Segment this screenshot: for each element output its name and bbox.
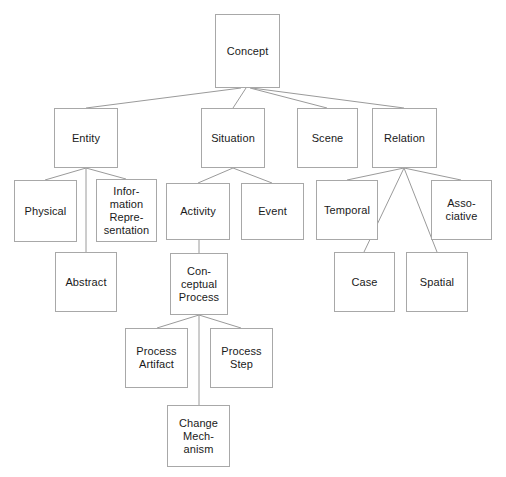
node-associative[interactable]: Asso- ciative: [431, 180, 492, 240]
node-conceptual[interactable]: Con- ceptual Process: [170, 253, 228, 315]
concept-taxonomy-diagram: ConceptEntitySituationSceneRelationPhysi…: [0, 0, 506, 477]
node-label-associative: Asso- ciative: [444, 197, 480, 223]
node-label-situation: Situation: [209, 132, 257, 145]
node-change_mech[interactable]: Change Mech- anism: [167, 405, 230, 467]
node-label-relation: Relation: [382, 132, 427, 145]
node-proc_artifact[interactable]: Process Artifact: [125, 328, 188, 388]
node-label-event: Event: [256, 205, 289, 218]
node-label-spatial: Spatial: [418, 276, 456, 289]
edge-relation-to-temporal: [347, 168, 404, 180]
node-abstract[interactable]: Abstract: [55, 252, 117, 312]
node-case[interactable]: Case: [334, 252, 395, 312]
node-label-physical: Physical: [23, 205, 69, 218]
edge-situation-to-activity: [198, 168, 233, 183]
edge-conceptual-to-proc_artifact: [157, 315, 199, 328]
edge-relation-to-associative: [404, 168, 461, 180]
node-label-concept: Concept: [225, 45, 271, 58]
node-physical[interactable]: Physical: [14, 180, 77, 242]
edge-concept-to-relation: [252, 88, 404, 108]
node-label-activity: Activity: [178, 205, 218, 218]
node-situation[interactable]: Situation: [201, 108, 265, 168]
node-label-temporal: Temporal: [322, 204, 372, 217]
node-label-case: Case: [349, 276, 379, 289]
node-info_rep[interactable]: Infor- mation Repre- sentation: [96, 179, 157, 242]
node-activity[interactable]: Activity: [166, 183, 230, 240]
node-label-change_mech: Change Mech- anism: [177, 417, 220, 456]
node-label-proc_artifact: Process Artifact: [134, 345, 178, 371]
edge-entity-to-info_rep: [86, 168, 126, 179]
node-relation[interactable]: Relation: [372, 108, 437, 168]
node-spatial[interactable]: Spatial: [406, 252, 468, 312]
node-concept[interactable]: Concept: [215, 14, 280, 88]
node-entity[interactable]: Entity: [54, 108, 118, 168]
node-label-entity: Entity: [70, 132, 102, 145]
node-label-conceptual: Con- ceptual Process: [177, 265, 221, 304]
node-proc_step[interactable]: Process Step: [210, 328, 273, 388]
edge-situation-to-event: [233, 168, 272, 183]
node-event[interactable]: Event: [241, 183, 304, 240]
node-label-abstract: Abstract: [63, 276, 108, 289]
node-label-scene: Scene: [310, 132, 346, 145]
node-label-info_rep: Infor- mation Repre- sentation: [102, 185, 152, 237]
node-scene[interactable]: Scene: [297, 108, 358, 168]
edge-entity-to-physical: [45, 168, 86, 180]
edge-concept-to-entity: [86, 88, 241, 108]
edge-conceptual-to-proc_step: [199, 315, 241, 328]
node-label-proc_step: Process Step: [219, 345, 263, 371]
edge-concept-to-situation: [233, 88, 246, 108]
edge-concept-to-scene: [250, 88, 327, 108]
node-temporal[interactable]: Temporal: [316, 180, 378, 240]
